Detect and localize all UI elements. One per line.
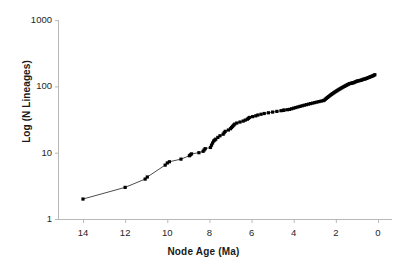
data-point (235, 121, 238, 124)
data-point (251, 115, 254, 118)
data-point (259, 113, 262, 116)
axis-lines (58, 20, 392, 219)
data-point (224, 130, 227, 133)
data-point (81, 197, 84, 200)
axis-tick-marks (55, 21, 379, 223)
data-point (146, 175, 149, 178)
data-point-markers (81, 73, 376, 201)
plot-area (0, 0, 407, 272)
data-point (275, 110, 278, 113)
ltt-chart-figure: Log (N Lineages) Node Age (Ma) 100010010… (0, 0, 407, 272)
data-point (124, 186, 127, 189)
data-point (373, 73, 376, 76)
data-point (267, 111, 270, 114)
data-point (179, 158, 182, 161)
data-point (168, 160, 171, 163)
data-point (197, 151, 200, 154)
data-point (190, 152, 193, 155)
data-point (283, 108, 286, 111)
data-point (238, 120, 241, 123)
data-point (263, 112, 266, 115)
data-point (218, 134, 221, 137)
data-point (248, 116, 251, 119)
data-point (204, 147, 207, 150)
data-point (271, 110, 274, 113)
data-point (256, 113, 259, 116)
